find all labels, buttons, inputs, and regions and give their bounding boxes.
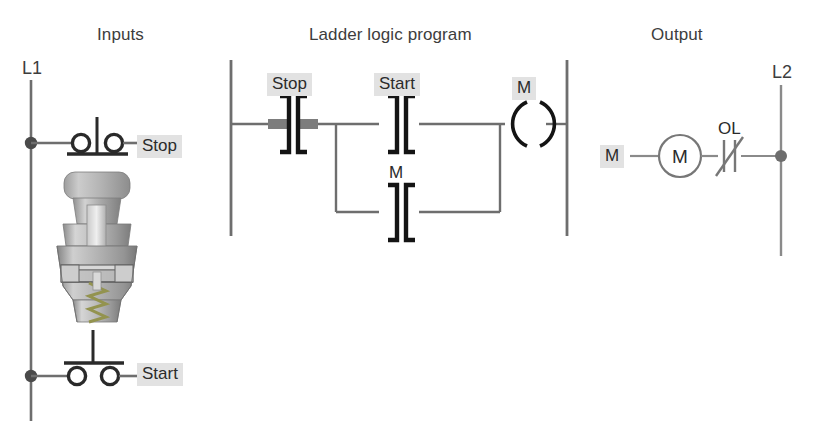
ladder-contact-start-label: Start: [374, 73, 420, 96]
ladder-contact-stop[interactable]: [268, 96, 318, 152]
motor-symbol[interactable]: [659, 135, 701, 177]
overload-contact-label: OL: [713, 118, 746, 141]
ladder-seal-in-branch: [336, 124, 500, 212]
start-pushbutton-label: Start: [137, 363, 183, 386]
overload-contact-symbol[interactable]: [716, 137, 743, 176]
rail-label-l2: L2: [772, 62, 792, 83]
heading-ladder-logic-program: Ladder logic program: [309, 25, 472, 45]
ladder-contact-m-branch-label: M: [384, 162, 408, 185]
stop-contact-power-left: [268, 119, 290, 129]
diagram-graphics: [0, 0, 813, 429]
pushbutton-cutaway-illustration: [57, 172, 137, 322]
output-l2-rail: [775, 85, 787, 256]
diagram-canvas: Inputs Ladder logic program Output L1 L2…: [0, 0, 813, 429]
heading-output: Output: [651, 25, 703, 45]
stop-contact-right-terminal: [105, 134, 122, 151]
start-contact-left-terminal: [68, 367, 85, 384]
ladder-contact-stop-label: Stop: [267, 73, 312, 96]
input-l1-rail: [25, 80, 37, 421]
rail-label-l1: L1: [22, 58, 42, 79]
output-coil-tag-label: M: [600, 145, 624, 168]
ladder-contact-m-branch[interactable]: [388, 185, 415, 240]
output-circuit: [630, 135, 781, 177]
ladder-contact-start[interactable]: [388, 96, 415, 152]
stop-pushbutton-label: Stop: [137, 135, 182, 158]
stop-contact-left-terminal: [72, 134, 89, 151]
start-pushbutton-symbol[interactable]: [31, 330, 145, 385]
start-contact-right-terminal: [101, 367, 118, 384]
junction-dot-l2: [775, 150, 787, 162]
stop-pushbutton-symbol[interactable]: [31, 117, 148, 154]
heading-inputs: Inputs: [97, 25, 144, 45]
ladder-coil-m-label: M: [512, 77, 536, 100]
